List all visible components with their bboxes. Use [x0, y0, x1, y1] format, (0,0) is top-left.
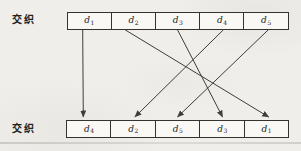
top-cell-d1: d1 — [68, 13, 112, 29]
top-cell-d2: d2 — [112, 13, 156, 29]
top-row-label: 交织 — [12, 11, 56, 29]
top-cell-d3: d3 — [156, 13, 200, 29]
bottom-cell-d4: d4 — [67, 121, 111, 137]
arrow-d4-to-slot2 — [135, 30, 224, 117]
bottom-cell-d3: d3 — [200, 121, 244, 137]
arrow-d3-to-slot4 — [178, 30, 223, 117]
arrow-d2-to-slot5 — [125, 30, 269, 117]
top-cell-d5: d5 — [244, 13, 287, 29]
top-cell-d4: d4 — [200, 13, 244, 29]
bottom-row-label: 交织 — [12, 120, 56, 138]
interleaving-diagram: 交织 交织 d1d2d3d4d5 d4d2d5d3d1 — [0, 0, 301, 151]
arrow-d5-to-slot3 — [178, 30, 269, 117]
bottom-cell-d2: d2 — [111, 121, 155, 137]
bottom-sequence-row: d4d2d5d3d1 — [66, 120, 289, 138]
top-sequence-row: d1d2d3d4d5 — [67, 12, 289, 30]
arrow-d1-to-slot1 — [83, 30, 84, 117]
bottom-cell-d1: d1 — [245, 121, 288, 137]
bottom-cell-d5: d5 — [156, 121, 200, 137]
scan-artifact-line — [0, 142, 301, 144]
